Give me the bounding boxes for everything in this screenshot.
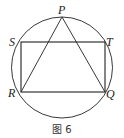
figure-caption: 图 6 [52,124,72,135]
circle [12,17,113,118]
label-T: T [106,35,114,49]
segment-PR [21,17,62,92]
label-Q: Q [106,87,115,101]
label-P: P [57,3,66,17]
label-S: S [9,35,15,49]
geometry-figure: P S T R Q 图 6 [0,0,124,138]
segment-PQ [62,17,105,92]
rectangle-STQR [21,42,105,92]
label-R: R [7,86,16,100]
